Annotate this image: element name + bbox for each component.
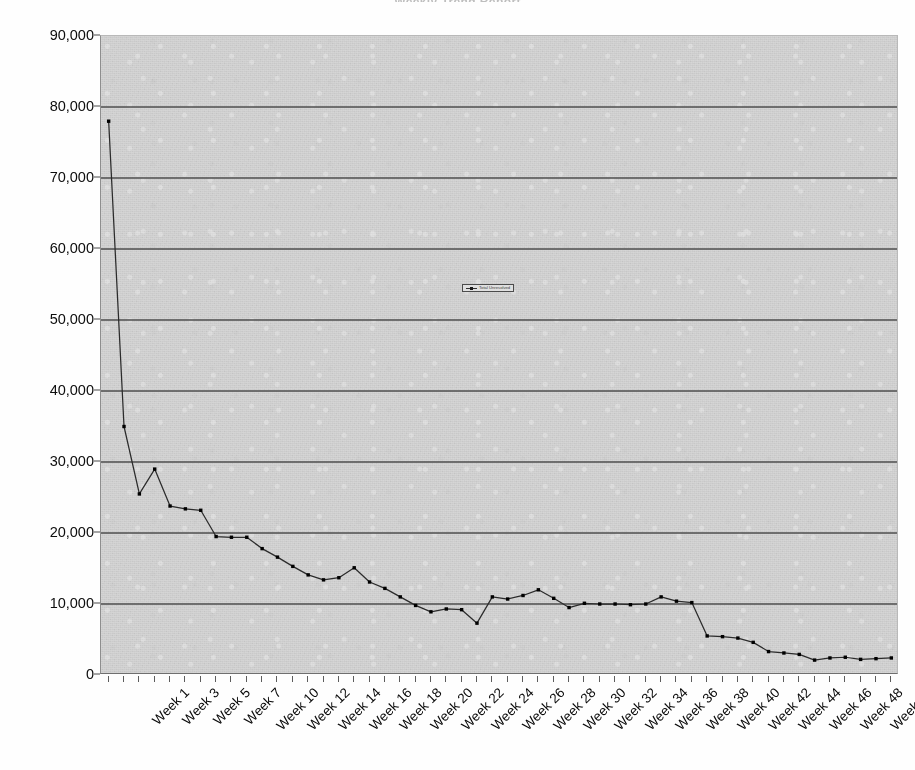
y-axis-tick-label: 50,000 — [8, 311, 94, 327]
x-axis-tick-mark — [568, 676, 569, 682]
y-axis-tick-label: 30,000 — [8, 453, 94, 469]
data-point-marker — [276, 555, 279, 558]
x-axis-tick-mark — [491, 676, 492, 682]
data-point-marker — [752, 641, 755, 644]
data-point-marker — [383, 587, 386, 590]
data-point-marker — [782, 651, 785, 654]
x-axis-tick-mark — [645, 676, 646, 682]
data-point-marker — [322, 578, 325, 581]
x-axis-tick-mark — [507, 676, 508, 682]
data-point-marker — [629, 603, 632, 606]
x-axis-tick-mark — [675, 676, 676, 682]
data-point-marker — [767, 650, 770, 653]
data-point-marker — [214, 535, 217, 538]
x-axis-tick-mark — [200, 676, 201, 682]
data-point-marker — [552, 597, 555, 600]
x-axis-tick-mark — [246, 676, 247, 682]
x-axis-tick-mark — [768, 676, 769, 682]
data-point-marker — [705, 634, 708, 637]
x-axis-tick-mark — [323, 676, 324, 682]
x-axis-tick-mark — [215, 676, 216, 682]
x-axis-tick-mark — [261, 676, 262, 682]
data-point-marker — [506, 597, 509, 600]
x-axis-tick-mark — [430, 676, 431, 682]
x-axis-tick-mark — [338, 676, 339, 682]
x-axis-tick-mark — [860, 676, 861, 682]
x-axis-tick-mark — [629, 676, 630, 682]
x-axis-tick-mark — [722, 676, 723, 682]
x-axis-tick-mark — [353, 676, 354, 682]
gridlines — [101, 107, 898, 604]
x-axis-tick-mark — [814, 676, 815, 682]
x-axis-tick-mark — [752, 676, 753, 682]
y-axis-tick-label: 90,000 — [8, 27, 94, 43]
x-axis-tick-mark — [184, 676, 185, 682]
x-axis-tick-mark — [522, 676, 523, 682]
y-axis-tick-label: 40,000 — [8, 382, 94, 398]
x-axis-tick-mark — [276, 676, 277, 682]
y-axis-tick-label: 70,000 — [8, 169, 94, 185]
data-point-marker — [644, 602, 647, 605]
x-axis: Week 1Week 3Week 5Week 7Week 10Week 12We… — [100, 676, 898, 770]
data-point-marker — [736, 636, 739, 639]
data-point-marker — [874, 657, 877, 660]
y-axis-tick-label: 0 — [8, 666, 94, 682]
x-axis-tick-mark — [415, 676, 416, 682]
x-axis-tick-mark — [583, 676, 584, 682]
data-point-marker — [138, 492, 141, 495]
x-axis-tick-mark — [614, 676, 615, 682]
data-point-marker — [890, 656, 893, 659]
x-axis-tick-mark — [599, 676, 600, 682]
data-point-marker — [353, 566, 356, 569]
chart-page: Weekly Trend Report 010,00020,00030,0004… — [0, 0, 915, 770]
data-point-marker — [721, 635, 724, 638]
x-axis-tick-mark — [108, 676, 109, 682]
data-point-marker — [613, 602, 616, 605]
x-axis-tick-mark — [307, 676, 308, 682]
x-axis-tick-mark — [230, 676, 231, 682]
x-axis-tick-mark — [844, 676, 845, 682]
x-axis-tick-mark — [537, 676, 538, 682]
x-axis-tick-mark — [875, 676, 876, 682]
data-point-marker — [475, 621, 478, 624]
x-axis-tick-mark — [829, 676, 830, 682]
page-title: Weekly Trend Report — [0, 0, 915, 2]
x-axis-tick-mark — [798, 676, 799, 682]
data-point-marker — [659, 595, 662, 598]
y-axis-tick-label: 20,000 — [8, 524, 94, 540]
data-point-marker — [199, 509, 202, 512]
data-point-marker — [429, 610, 432, 613]
data-point-marker — [368, 580, 371, 583]
data-point-marker — [184, 507, 187, 510]
data-point-marker — [168, 504, 171, 507]
x-axis-tick-mark — [369, 676, 370, 682]
x-axis-tick-mark — [123, 676, 124, 682]
x-axis-tick-mark — [399, 676, 400, 682]
data-point-marker — [245, 536, 248, 539]
data-point-marker — [813, 658, 816, 661]
x-axis-tick-mark — [461, 676, 462, 682]
chart-legend: Total Unresolved — [462, 284, 514, 292]
y-axis: 010,00020,00030,00040,00050,00060,00070,… — [0, 0, 94, 770]
x-axis-tick-mark — [553, 676, 554, 682]
data-point-marker — [460, 608, 463, 611]
x-axis-tick-mark — [138, 676, 139, 682]
data-point-marker — [291, 565, 294, 568]
data-point-marker — [598, 602, 601, 605]
data-point-marker — [230, 536, 233, 539]
x-axis-tick-mark — [737, 676, 738, 682]
x-axis-tick-mark — [783, 676, 784, 682]
data-point-marker — [107, 120, 110, 123]
x-axis-tick-mark — [476, 676, 477, 682]
data-point-marker — [399, 595, 402, 598]
x-axis-tick-mark — [154, 676, 155, 682]
data-point-marker — [537, 588, 540, 591]
plot-area — [100, 35, 898, 674]
y-axis-tick-label: 80,000 — [8, 98, 94, 114]
data-point-marker — [260, 547, 263, 550]
data-point-marker — [521, 594, 524, 597]
data-point-marker — [122, 425, 125, 428]
data-point-marker — [445, 607, 448, 610]
data-point-marker — [153, 467, 156, 470]
data-point-marker — [844, 656, 847, 659]
